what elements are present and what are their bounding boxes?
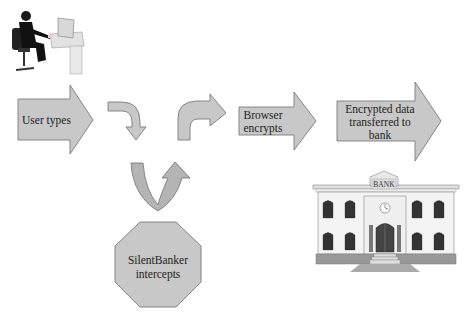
bank-sign: BANK bbox=[373, 180, 395, 189]
bank-building-icon: BANK bbox=[313, 171, 459, 272]
diagram-canvas: User types Browser encrypts Encrypted da… bbox=[0, 0, 472, 329]
browser-encrypts-label-line-1: Browser bbox=[244, 109, 283, 121]
u-turn-arrow bbox=[131, 162, 190, 211]
silentbanker-label-line-1: SilentBanker bbox=[128, 254, 188, 266]
bent-right-arrow bbox=[178, 94, 226, 140]
browser-encrypts-label-line-2: encrypts bbox=[244, 122, 283, 135]
silentbanker-label-line-2: intercepts bbox=[136, 268, 181, 281]
browser-encrypts-arrow: Browser encrypts bbox=[239, 92, 316, 150]
encrypted-data-label-line-3: bank bbox=[369, 129, 392, 141]
bent-down-arrow bbox=[108, 102, 146, 140]
encrypted-data-arrow: Encrypted data transferred to bank bbox=[337, 82, 441, 161]
user-types-arrow: User types bbox=[18, 85, 93, 154]
encrypted-data-label-line-2: transferred to bbox=[349, 116, 411, 128]
person-at-computer-icon bbox=[12, 11, 84, 74]
encrypted-data-label-line-1: Encrypted data bbox=[345, 103, 414, 116]
user-types-label: User types bbox=[22, 114, 71, 127]
silentbanker-octagon: SilentBanker intercepts bbox=[115, 222, 201, 307]
